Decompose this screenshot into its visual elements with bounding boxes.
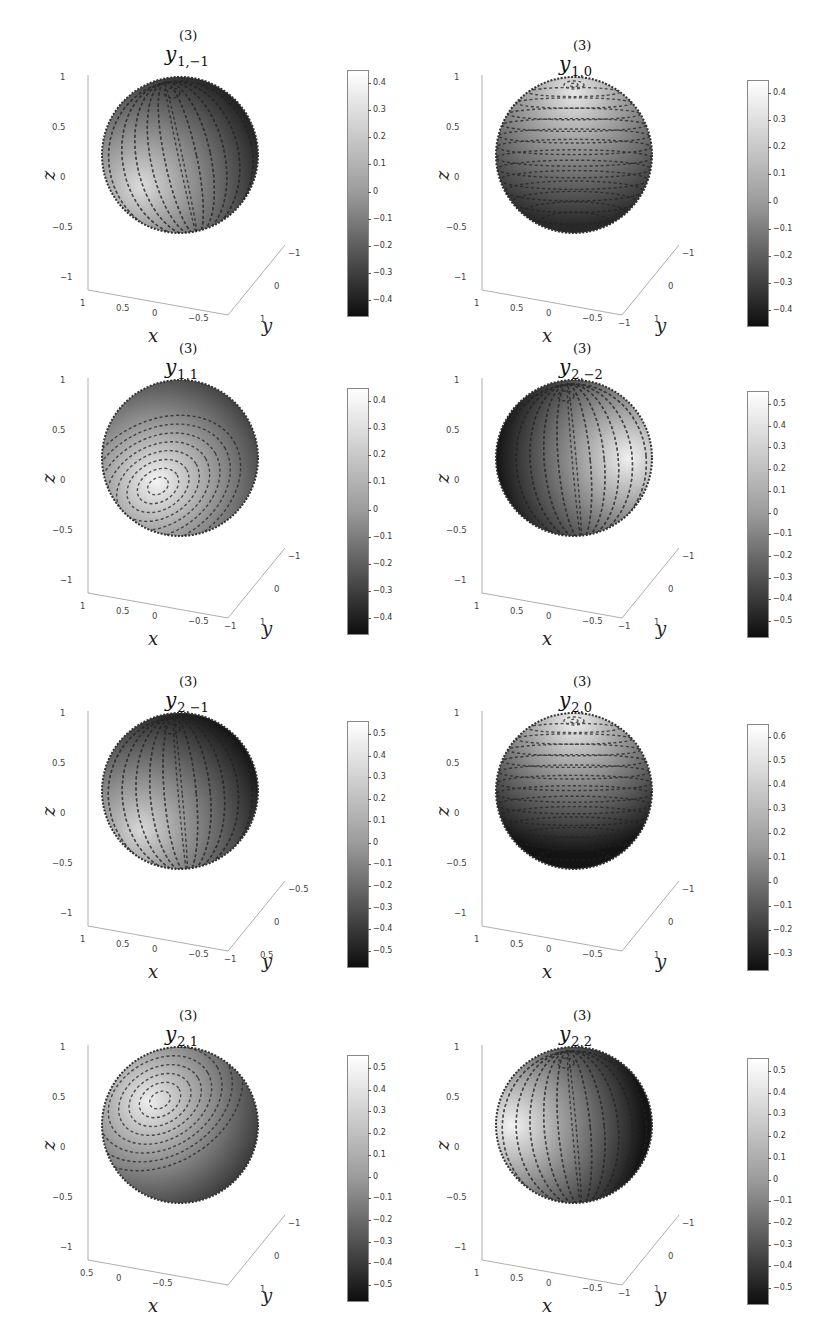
z-tick-label: −0.5: [446, 858, 467, 868]
colorbar-tick-label: −0.3: [773, 949, 792, 958]
colorbar-tick-label: −0.1: [373, 859, 392, 868]
colorbar-tick-label: 0: [773, 508, 778, 517]
colorbar-tick-label: 0.4: [373, 1085, 386, 1094]
colorbar-tick-label: 0.3: [373, 1106, 386, 1115]
z-tick-label: −1: [454, 575, 467, 585]
colorbar-tick-label: 0.4: [373, 751, 386, 760]
colorbar: [747, 724, 769, 971]
z-axis-label: z: [432, 474, 453, 483]
z-tick-label: 0: [60, 475, 65, 485]
z-tick-label: 0.5: [446, 122, 460, 132]
z-tick-label: 0.5: [52, 122, 66, 132]
x-tick-label: 1: [80, 298, 85, 308]
z-axis-label: z: [432, 1141, 453, 1150]
z-tick-label: −1: [454, 908, 467, 918]
x-tick-label: −1: [618, 1288, 631, 1298]
colorbar-tick-label: −0.1: [373, 532, 392, 541]
colorbar-tick-label: −0.3: [373, 268, 392, 277]
z-axis-label: z: [38, 474, 59, 483]
colorbar: [747, 1058, 769, 1305]
colorbar-tick-label: 0.2: [773, 464, 786, 473]
y-tick-label: 0: [668, 584, 673, 594]
colorbar-tick-label: −0.3: [773, 573, 792, 582]
colorbar: [347, 1055, 369, 1302]
colorbar-tick-label: −0.1: [773, 529, 792, 538]
z-tick-label: −0.5: [52, 222, 73, 232]
colorbar: [747, 391, 769, 638]
subplot-1: (3)y1,−1 10.50−0.5−110.50−0.5−101zxy0.40…: [0, 0, 412, 330]
z-tick-label: 1: [60, 708, 65, 718]
colorbar-tick-label: −0.4: [373, 1258, 392, 1267]
x-tick-label: −0.5: [152, 1278, 173, 1288]
colorbar-tick-label: −0.1: [773, 901, 792, 910]
z-tick-label: 0: [454, 808, 459, 818]
colorbar-tick-label: −0.4: [773, 594, 792, 603]
z-tick-label: −1: [60, 272, 73, 282]
z-tick-label: 1: [454, 708, 459, 718]
x-tick-label: 1: [80, 934, 85, 944]
colorbar-tick-label: −0.1: [373, 214, 392, 223]
colorbar-tick-label: −0.3: [773, 1240, 792, 1249]
subplot-4: (3)y2,−2 10.50−0.5−110.50−0.5−1−101zxy0.…: [412, 333, 824, 663]
x-tick-label: −0.5: [582, 1283, 603, 1293]
colorbar-tick-label: 0: [773, 197, 778, 206]
colorbar-tick-label: 0.2: [773, 142, 786, 151]
x-tick-label: 1: [474, 601, 479, 611]
colorbar-tick-label: −0.3: [373, 586, 392, 595]
z-tick-label: 0: [454, 1142, 459, 1152]
colorbar-tick-label: 0.5: [373, 1063, 386, 1072]
subplot-3: (3)y1,1 10.50−0.5−110.50−0.5−1−101zxy0.4…: [0, 333, 412, 663]
colorbar-tick-label: −0.2: [773, 925, 792, 934]
colorbar: [347, 721, 369, 968]
z-tick-label: 0.5: [446, 1092, 460, 1102]
z-tick-label: 1: [454, 1042, 459, 1052]
colorbar-tick-label: −0.1: [373, 1193, 392, 1202]
x-tick-label: 0: [116, 1273, 121, 1283]
x-tick-label: −0.5: [582, 949, 603, 959]
colorbar-tick-label: 0: [773, 877, 778, 886]
z-axis-label: z: [432, 171, 453, 180]
colorbar-tick-label: −0.4: [373, 295, 392, 304]
colorbar: [347, 388, 369, 635]
colorbar-tick-label: −0.3: [373, 903, 392, 912]
z-axis-label: z: [38, 1141, 59, 1150]
x-tick-label: 0.5: [116, 606, 130, 616]
subplot-5: (3)y2,−1 10.50−0.5−110.50−0.5−1−0.500.5z…: [0, 666, 412, 996]
y-tick-label: 0: [274, 917, 279, 927]
x-axis-label: x: [148, 1295, 158, 1316]
z-tick-label: 1: [454, 375, 459, 385]
colorbar-tick-label: −0.4: [373, 924, 392, 933]
y-tick-label: 0: [668, 917, 673, 927]
x-axis-label: x: [148, 628, 158, 649]
x-tick-label: 0.5: [510, 303, 524, 313]
x-tick-label: 0.5: [510, 939, 524, 949]
colorbar-tick-label: −0.2: [773, 1218, 792, 1227]
x-tick-label: 0: [152, 308, 157, 318]
y-tick-label: 0: [274, 1251, 279, 1261]
colorbar-tick-label: 0.2: [373, 794, 386, 803]
x-tick-label: −0.5: [188, 616, 209, 626]
y-axis-label: y: [262, 951, 272, 972]
colorbar-tick-label: 0.1: [773, 486, 786, 495]
colorbar-tick-label: 0.2: [373, 1128, 386, 1137]
colorbar-tick-label: 0.4: [373, 396, 386, 405]
colorbar-tick-label: −0.5: [373, 1280, 392, 1289]
z-tick-label: 0: [60, 1142, 65, 1152]
z-tick-label: −1: [454, 1242, 467, 1252]
x-tick-label: −0.5: [582, 616, 603, 626]
y-tick-label: −1: [682, 1218, 695, 1228]
x-axis-label: x: [542, 628, 552, 649]
y-tick-label: −1: [288, 1218, 301, 1228]
x-tick-label: 0.5: [116, 939, 130, 949]
z-axis-label: z: [38, 807, 59, 816]
colorbar-tick-label: −0.1: [773, 1196, 792, 1205]
colorbar-tick-label: 0.5: [373, 729, 386, 738]
x-tick-label: 0: [546, 308, 551, 318]
colorbar-tick-label: 0.6: [773, 732, 786, 741]
z-tick-label: −1: [454, 272, 467, 282]
colorbar-tick-label: −0.5: [373, 946, 392, 955]
colorbar-tick-label: −0.2: [373, 881, 392, 890]
x-tick-label: 0.5: [510, 1273, 524, 1283]
x-tick-label: −0.5: [188, 313, 209, 323]
z-tick-label: 1: [60, 72, 65, 82]
